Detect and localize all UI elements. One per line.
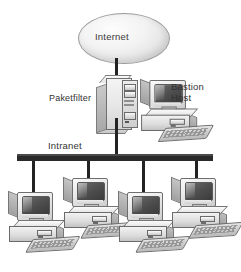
tower-power-led [125,121,129,123]
paketfilter-tower-pc-icon[interactable] [96,76,142,132]
tower-drive-bay [124,91,136,98]
monitor-screen-glare [78,183,87,198]
monitor-screen-glare [155,85,164,100]
internet-label: Internet [95,31,129,42]
bastion-host-label-line1: Bastion [171,81,204,92]
monitor-screen-glare [186,183,195,198]
keyboard-icon [157,125,214,143]
client-computer-icon[interactable] [168,178,234,238]
intranet-label: Intranet [48,140,82,151]
monitor-screen-glare [133,197,142,212]
bastion-host-label: Bastion Host [171,81,204,103]
tower-floppy-drive [124,112,136,120]
bastion-host-label-line2: Host [171,92,204,103]
paketfilter-label: Paketfilter [49,93,91,104]
keyboard-icon [135,236,191,253]
monitor-screen-glare [23,197,32,212]
keyboard-icon [25,236,81,253]
link-paketfilter-intranet [115,118,118,156]
tower-drive-bay [124,84,136,91]
tower-vent-slot [124,104,134,106]
keyboard-icon [188,222,241,239]
tower-vent-slot [124,100,134,102]
network-diagram-canvas: Internet Paketfilter Bastion Host [0,0,241,272]
intranet-bus-bar[interactable] [17,154,213,161]
